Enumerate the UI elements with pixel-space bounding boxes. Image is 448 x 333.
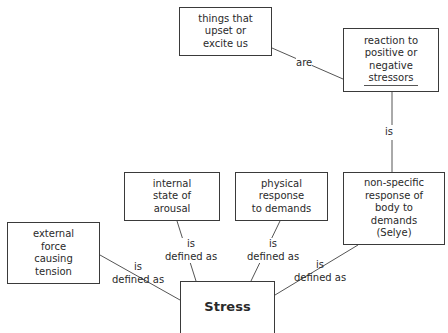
node-text: negative — [364, 60, 418, 73]
node-things-that-upset: things that upset or excite us — [179, 7, 272, 56]
link-label-physical: is defined as — [247, 238, 299, 263]
node-external-force: external force causing tension — [7, 222, 100, 284]
node-text: state of — [153, 190, 191, 203]
link-text: is — [112, 261, 164, 274]
node-text: reaction to — [364, 35, 418, 48]
link-text: defined as — [294, 272, 346, 285]
link-text: is — [294, 259, 346, 272]
node-non-specific-response: non-specific response of body to demands… — [343, 172, 445, 245]
link-text: defined as — [165, 251, 217, 264]
link-text: is — [165, 238, 217, 251]
node-text: causing — [33, 253, 74, 266]
link-text: is — [247, 238, 299, 251]
link-label-nonspecific: is defined as — [294, 259, 346, 284]
link-text: are — [296, 57, 312, 68]
node-internal-state: internal state of arousal — [124, 172, 220, 221]
node-text: positive or — [364, 47, 418, 60]
link-label-is: is — [385, 125, 393, 140]
node-text: response of — [364, 190, 424, 203]
node-stress-center: Stress — [180, 281, 275, 333]
link-label-are: are — [296, 57, 312, 70]
node-text: body to — [364, 202, 424, 215]
node-text: (Selye) — [364, 227, 424, 240]
node-text: non-specific — [364, 177, 424, 190]
node-text: force — [33, 241, 74, 254]
node-text: tension — [33, 266, 74, 279]
link-text: defined as — [112, 274, 164, 287]
node-text: excite us — [198, 38, 252, 51]
node-text: to demands — [252, 203, 311, 216]
node-text: response — [252, 190, 311, 203]
link-text: defined as — [247, 251, 299, 264]
node-text: external — [33, 228, 74, 241]
node-text: things that — [198, 13, 252, 26]
node-text: physical — [252, 178, 311, 191]
link-label-internal: is defined as — [165, 238, 217, 263]
node-text: arousal — [153, 203, 191, 216]
node-text-underlined: stressors — [364, 72, 418, 86]
link-label-external: is defined as — [112, 261, 164, 286]
node-physical-response: physical response to demands — [235, 172, 328, 221]
node-text: internal — [153, 178, 191, 191]
link-text: is — [385, 126, 393, 137]
node-text: upset or — [198, 25, 252, 38]
center-label: Stress — [204, 301, 250, 314]
node-text: demands — [364, 215, 424, 228]
node-reaction-to-stressors: reaction to positive or negative stresso… — [343, 28, 439, 92]
